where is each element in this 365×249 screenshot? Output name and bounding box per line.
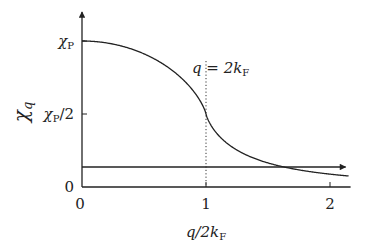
annotation-q-2kf: q = 2kF	[192, 59, 249, 78]
x-axis-label: q/2kF	[186, 223, 226, 242]
axes	[82, 12, 351, 187]
y-tick-label: χP	[57, 32, 74, 51]
y-tick-label: 0	[64, 178, 74, 196]
y-axis-label: χq	[9, 102, 35, 124]
x-tick-label: 1	[201, 195, 211, 213]
y-tick-label: χP/2	[43, 105, 74, 124]
x-tick-label: 2	[325, 195, 335, 213]
chart: 0χP/2χP012 q/2kF χq q = 2kF	[0, 0, 365, 249]
x-tick-label: 0	[75, 195, 85, 213]
